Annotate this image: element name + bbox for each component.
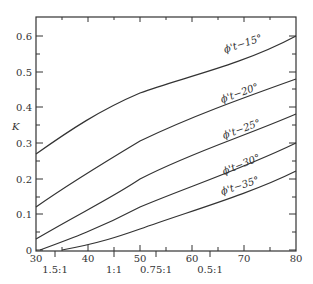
curve-label-15: ϕ't−15° (222, 32, 263, 55)
y-tick-0.6: 0.6 (16, 31, 32, 42)
x-tick-80: 80 (290, 253, 303, 264)
curve-label-30: ϕ't−30° (221, 152, 262, 177)
x-tick-60: 60 (186, 253, 199, 264)
y-axis-label: K (11, 121, 20, 132)
y-tick-0.2: 0.2 (16, 174, 32, 185)
curve-label-35: ϕ't−35° (219, 174, 260, 197)
x-tick-labels: 30 40 50 60 70 80 1.5:1 1:1 0.75:1 0.5:1 (30, 253, 303, 275)
y-tick-0.3: 0.3 (16, 138, 32, 149)
x-tick-70: 70 (238, 253, 251, 264)
curves (36, 36, 296, 250)
curve-label-20: ϕ't−20° (219, 81, 260, 105)
y-tick-0.5: 0.5 (16, 67, 32, 78)
curve-15 (36, 36, 296, 154)
x-tick-50: 50 (134, 253, 147, 264)
y-tick-0.1: 0.1 (16, 209, 32, 220)
chart: 0 0.1 0.2 0.3 0.4 0.5 0.6 K 30 40 50 60 … (0, 0, 313, 284)
ratio-label-0.75: 0.75:1 (140, 264, 172, 275)
plot-frame (36, 17, 296, 251)
ratio-label-1.5: 1.5:1 (42, 264, 68, 275)
ratio-label-0.5: 0.5:1 (197, 264, 223, 275)
y-ticks (36, 36, 296, 250)
x-tick-30: 30 (30, 253, 43, 264)
curve-label-25: ϕ't−25° (221, 117, 262, 141)
curve-35 (62, 171, 296, 250)
y-tick-labels: 0 0.1 0.2 0.3 0.4 0.5 0.6 (16, 31, 32, 256)
x-tick-40: 40 (82, 253, 95, 264)
curve-labels: ϕ't−15° ϕ't−20° ϕ't−25° ϕ't−30° ϕ't−35° (219, 32, 263, 197)
y-tick-0.4: 0.4 (16, 102, 32, 113)
ratio-label-1: 1:1 (106, 264, 122, 275)
